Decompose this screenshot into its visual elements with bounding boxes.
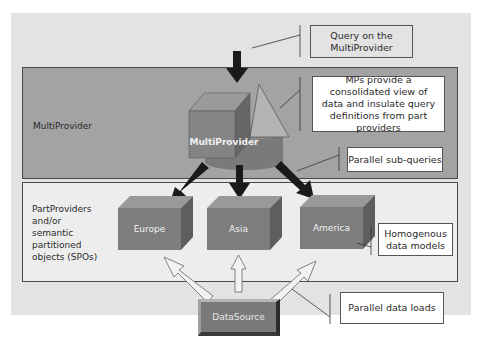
cube-america-icon xyxy=(300,195,375,249)
cube-asia-icon xyxy=(207,196,282,250)
callout-dataloads: Parallel data loads xyxy=(340,292,444,324)
callout-subqueries-text: Parallel sub-queries xyxy=(348,154,441,166)
callout-query: Query on the MultiProvider xyxy=(310,25,413,58)
query-arrow-icon xyxy=(226,51,248,83)
datasource-node: DataSource xyxy=(198,299,280,336)
cube-europe-icon xyxy=(118,196,193,250)
callout-consolidated: MPs provide a consolidated view of data … xyxy=(312,76,445,132)
partprovider-america-label: America xyxy=(300,223,363,233)
callout-leaders xyxy=(252,25,371,324)
callout-subqueries: Parallel sub-queries xyxy=(347,147,443,172)
multiprovider-node-label: MultiProvider xyxy=(189,137,259,147)
callout-dataloads-text: Parallel data loads xyxy=(348,302,435,314)
partprovider-asia-label: Asia xyxy=(207,224,270,234)
callout-homogenous-text: Homogenous data models xyxy=(383,228,448,252)
callout-consolidated-text: MPs provide a consolidated view of data … xyxy=(318,74,439,134)
callout-query-text: Query on the MultiProvider xyxy=(317,30,406,54)
datasource-label: DataSource xyxy=(212,312,264,322)
dataload-arrows-icon xyxy=(164,255,316,305)
partprovider-europe-label: Europe xyxy=(118,224,181,234)
multiprovider-shape-icon xyxy=(189,84,289,170)
callout-homogenous: Homogenous data models xyxy=(378,223,453,256)
